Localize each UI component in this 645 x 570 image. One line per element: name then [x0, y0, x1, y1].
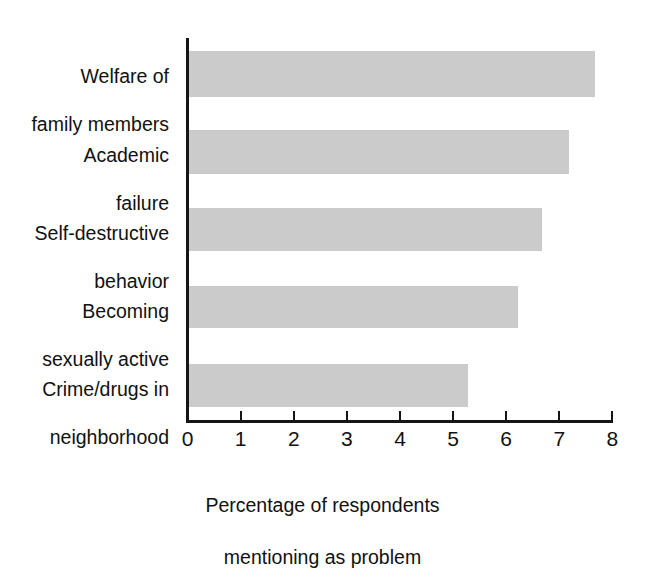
x-tick-label-7: 7	[539, 426, 579, 451]
y-axis-line	[186, 38, 189, 423]
bar-self-destructive-behavior	[189, 208, 542, 251]
category-label-line1: Self-destructive	[35, 222, 169, 244]
x-tick-label-8: 8	[592, 426, 632, 451]
x-tick-1	[240, 411, 242, 420]
x-tick-6	[505, 411, 507, 420]
x-tick-7	[558, 411, 560, 420]
x-tick-label-5: 5	[433, 426, 473, 451]
category-label-line1: Welfare of	[80, 65, 169, 87]
x-axis-title: Percentage of respondents mentioning as …	[0, 466, 645, 570]
x-tick-3	[346, 411, 348, 420]
x-tick-8	[611, 411, 613, 420]
bar-academic-failure	[189, 130, 569, 174]
category-label-line1: Crime/drugs in	[42, 378, 169, 400]
x-tick-label-3: 3	[327, 426, 367, 451]
category-label-line2: neighborhood	[50, 426, 169, 448]
x-tick-label-1: 1	[221, 426, 261, 451]
x-axis-title-line1: Percentage of respondents	[205, 494, 439, 516]
x-tick-0	[187, 411, 189, 420]
x-axis-line	[186, 420, 613, 423]
category-label-line1: Becoming	[82, 300, 169, 322]
category-label-line1: Academic	[83, 144, 169, 166]
x-tick-label-6: 6	[486, 426, 526, 451]
x-axis-title-line2: mentioning as problem	[224, 546, 421, 568]
bar-becoming-sexually-active	[189, 286, 518, 328]
x-tick-label-4: 4	[380, 426, 420, 451]
category-label-4: Crime/drugs in neighborhood	[42, 353, 169, 449]
x-tick-4	[399, 411, 401, 420]
x-tick-label-0: 0	[168, 426, 208, 451]
bar-welfare-of-family-members	[189, 51, 595, 97]
bar-crime-drugs-in-neighborhood	[189, 364, 468, 407]
x-tick-label-2: 2	[274, 426, 314, 451]
x-tick-5	[452, 411, 454, 420]
x-tick-2	[293, 411, 295, 420]
